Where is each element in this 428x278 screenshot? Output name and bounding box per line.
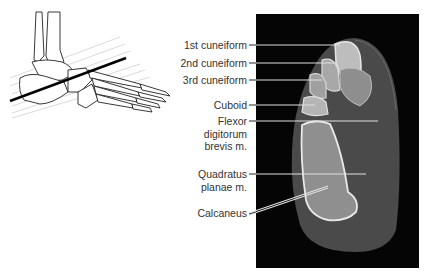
label-text: Flexor xyxy=(204,115,247,128)
anatomy-figure: 1st cuneiform 2nd cuneiform 3rd cuneifor… xyxy=(0,0,428,278)
label-text: digitorum xyxy=(204,128,247,141)
label-third-cuneiform: 3rd cuneiform xyxy=(183,74,247,87)
label-flexor-digitorum-brevis: Flexor digitorum brevis m. xyxy=(204,115,247,153)
label-second-cuneiform: 2nd cuneiform xyxy=(180,57,247,70)
label-text: 2nd cuneiform xyxy=(180,57,247,69)
label-first-cuneiform: 1st cuneiform xyxy=(184,39,247,52)
label-text: Quadratus xyxy=(198,168,247,181)
label-text: Cuboid xyxy=(214,99,247,111)
label-calcaneus: Calcaneus xyxy=(197,207,247,220)
leader-line-stubs xyxy=(249,45,256,214)
label-text: brevis m. xyxy=(204,140,247,153)
label-text: 3rd cuneiform xyxy=(183,74,247,86)
label-cuboid: Cuboid xyxy=(214,99,247,112)
label-quadratus-planae: Quadratus planae m. xyxy=(198,168,247,193)
third-cuneiform-bone xyxy=(310,74,326,99)
label-text: Calcaneus xyxy=(197,207,247,219)
label-text: planae m. xyxy=(198,181,247,194)
label-text: 1st cuneiform xyxy=(184,39,247,51)
